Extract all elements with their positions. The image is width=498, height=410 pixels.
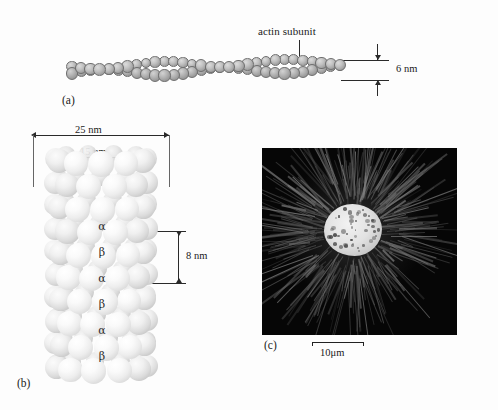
panel-c-micrograph: 10μm (c) bbox=[250, 130, 498, 410]
nucleus-speckle bbox=[329, 235, 333, 238]
nucleus-speckle bbox=[339, 245, 343, 248]
panel-b-microtubule: 25 nm 15 nm αβαβαβ 8 nm (b) bbox=[0, 115, 250, 410]
actin-subunit-bead bbox=[93, 63, 106, 76]
tubulin-subunit-bead bbox=[107, 358, 132, 383]
arrowhead-down-6nm bbox=[375, 55, 381, 60]
dimension-25nm-label: 25 nm bbox=[71, 124, 106, 135]
panel-a-actin-filament: actin subunit 6 nm (a) bbox=[0, 0, 498, 115]
tubulin-subunit-bead bbox=[55, 173, 79, 197]
actin-subunit-bead bbox=[261, 56, 272, 67]
tubulin-subunit-label-alpha: α bbox=[95, 272, 109, 285]
tubulin-subunit-label-alpha: α bbox=[95, 324, 109, 337]
tubulin-subunit-bead bbox=[58, 358, 82, 382]
nucleus-speckle bbox=[356, 212, 360, 215]
actin-subunit-bead bbox=[141, 58, 152, 69]
scale-bar-line bbox=[312, 342, 364, 343]
micrograph-image bbox=[262, 148, 457, 335]
tubulin-subunit-bead bbox=[65, 197, 90, 222]
arrowhead-up-8nm bbox=[176, 278, 182, 283]
tubulin-subunit-bead bbox=[88, 151, 113, 176]
tubulin-subunit-bead bbox=[56, 265, 80, 289]
dimension-rule-top bbox=[341, 60, 389, 61]
tubulin-subunit-label-alpha: α bbox=[95, 220, 109, 233]
tubulin-subunit-bead bbox=[76, 174, 101, 199]
nucleus-speckle bbox=[355, 220, 357, 222]
actin-subunit-bead bbox=[270, 54, 281, 65]
tubulin-subunit-bead bbox=[125, 219, 149, 243]
figure-canvas: actin subunit 6 nm (a) 25 nm 15 nm bbox=[0, 0, 498, 410]
nucleus-speckle bbox=[346, 233, 348, 235]
nucleus-speckle bbox=[377, 228, 380, 231]
actin-subunit-bead bbox=[149, 56, 160, 67]
actin-subunit-label: actin subunit bbox=[258, 25, 316, 37]
nucleus-speckle bbox=[371, 225, 374, 228]
tubulin-subunit-bead bbox=[114, 151, 139, 176]
arrowhead-up-6nm bbox=[375, 80, 381, 85]
actin-subunit-bead bbox=[278, 67, 290, 79]
nucleus-speckle bbox=[341, 229, 346, 233]
nucleus-speckle bbox=[367, 224, 369, 226]
tubulin-subunit-bead bbox=[64, 151, 89, 176]
tubulin-subunit-label-beta: β bbox=[95, 298, 109, 311]
tubulin-subunit-bead bbox=[102, 174, 127, 199]
dimension-8nm-label: 8 nm bbox=[186, 250, 207, 261]
guide-line-25nm-right bbox=[169, 135, 170, 187]
dimension-rule-bottom bbox=[341, 80, 389, 81]
nucleus-speckle bbox=[362, 244, 365, 247]
scale-bar-label: 10μm bbox=[320, 347, 344, 358]
scale-bar-tick-left bbox=[312, 342, 313, 346]
nucleus-speckle bbox=[373, 230, 376, 233]
tubulin-subunit-label-beta: β bbox=[95, 350, 109, 363]
nucleus-speckle bbox=[354, 235, 357, 238]
tubulin-subunit-bead bbox=[55, 219, 79, 243]
tubulin-subunit-bead bbox=[106, 312, 131, 337]
nucleus-speckle bbox=[368, 215, 370, 217]
nucleus-speckle bbox=[343, 207, 347, 210]
actin-subunit-bead bbox=[158, 69, 170, 81]
tubulin-subunit-bead bbox=[66, 243, 91, 268]
dimension-6nm-label: 6 nm bbox=[396, 63, 417, 74]
nucleus-speckle bbox=[362, 209, 364, 211]
dimension-25nm-rule bbox=[33, 135, 169, 136]
dimension-8nm-vertical bbox=[178, 231, 179, 283]
nucleus-speckle bbox=[333, 242, 337, 246]
nucleus-speckle bbox=[365, 219, 370, 223]
scale-bar-tick-right bbox=[363, 342, 364, 346]
nucleus-speckle bbox=[371, 219, 376, 223]
tubulin-subunit-bead bbox=[67, 289, 92, 314]
actin-subunit-bead bbox=[334, 59, 346, 71]
tubulin-subunit-bead bbox=[57, 311, 81, 335]
nucleus-speckle bbox=[349, 215, 353, 219]
panel-b-tag: (b) bbox=[17, 377, 30, 389]
panel-a-tag: (a) bbox=[62, 94, 75, 106]
arrowhead-down-8nm bbox=[176, 231, 182, 236]
nucleus-speckle bbox=[330, 228, 333, 231]
tubulin-subunit-bead bbox=[68, 335, 93, 360]
tubulin-subunit-label-beta: β bbox=[95, 246, 109, 259]
nucleus-speckle bbox=[364, 229, 367, 232]
panel-c-tag: (c) bbox=[264, 339, 277, 351]
guide-line-25nm-left bbox=[33, 135, 34, 187]
tubulin-subunit-bead bbox=[90, 197, 115, 222]
